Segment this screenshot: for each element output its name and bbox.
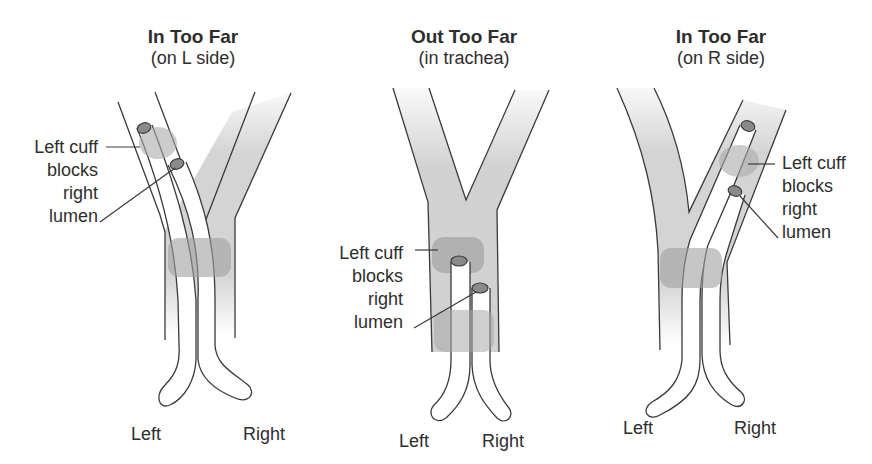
panel-2-title: Out Too Far xyxy=(364,26,564,48)
panel-3-subtitle: (on R side) xyxy=(621,48,821,69)
panel-3-right-label: Right xyxy=(734,418,776,439)
panel-left-airway xyxy=(100,92,291,406)
panel-2-right-label: Right xyxy=(482,431,524,452)
panel-2-subtitle: (in trachea) xyxy=(364,48,564,69)
panel-1-left-label: Left xyxy=(131,424,161,445)
panel-1-subtitle: (on L side) xyxy=(93,48,293,69)
panel-2-left-label: Left xyxy=(399,431,429,452)
panel-1-right-label: Right xyxy=(243,424,285,445)
panel-1-annotation: Left cuff blocks right lumen xyxy=(4,136,98,228)
panel-1-title: In Too Far xyxy=(93,26,293,48)
panel-3-annotation: Left cuff blocks right lumen xyxy=(782,152,872,244)
tracheal-cuff xyxy=(168,238,231,277)
panel-right-airway xyxy=(617,88,786,417)
left-cuff xyxy=(719,145,759,177)
tracheal-cuff xyxy=(660,248,722,288)
airway-illustration xyxy=(0,0,872,464)
panel-middle-airway xyxy=(393,88,549,421)
panel-3-left-label: Left xyxy=(623,418,653,439)
panel-2-annotation: Left cuff blocks right lumen xyxy=(300,242,403,334)
tracheal-cuff xyxy=(434,310,494,352)
panel-3-title: In Too Far xyxy=(621,26,821,48)
diagram-canvas: In Too Far (on L side) Left cuff blocks … xyxy=(0,0,872,464)
